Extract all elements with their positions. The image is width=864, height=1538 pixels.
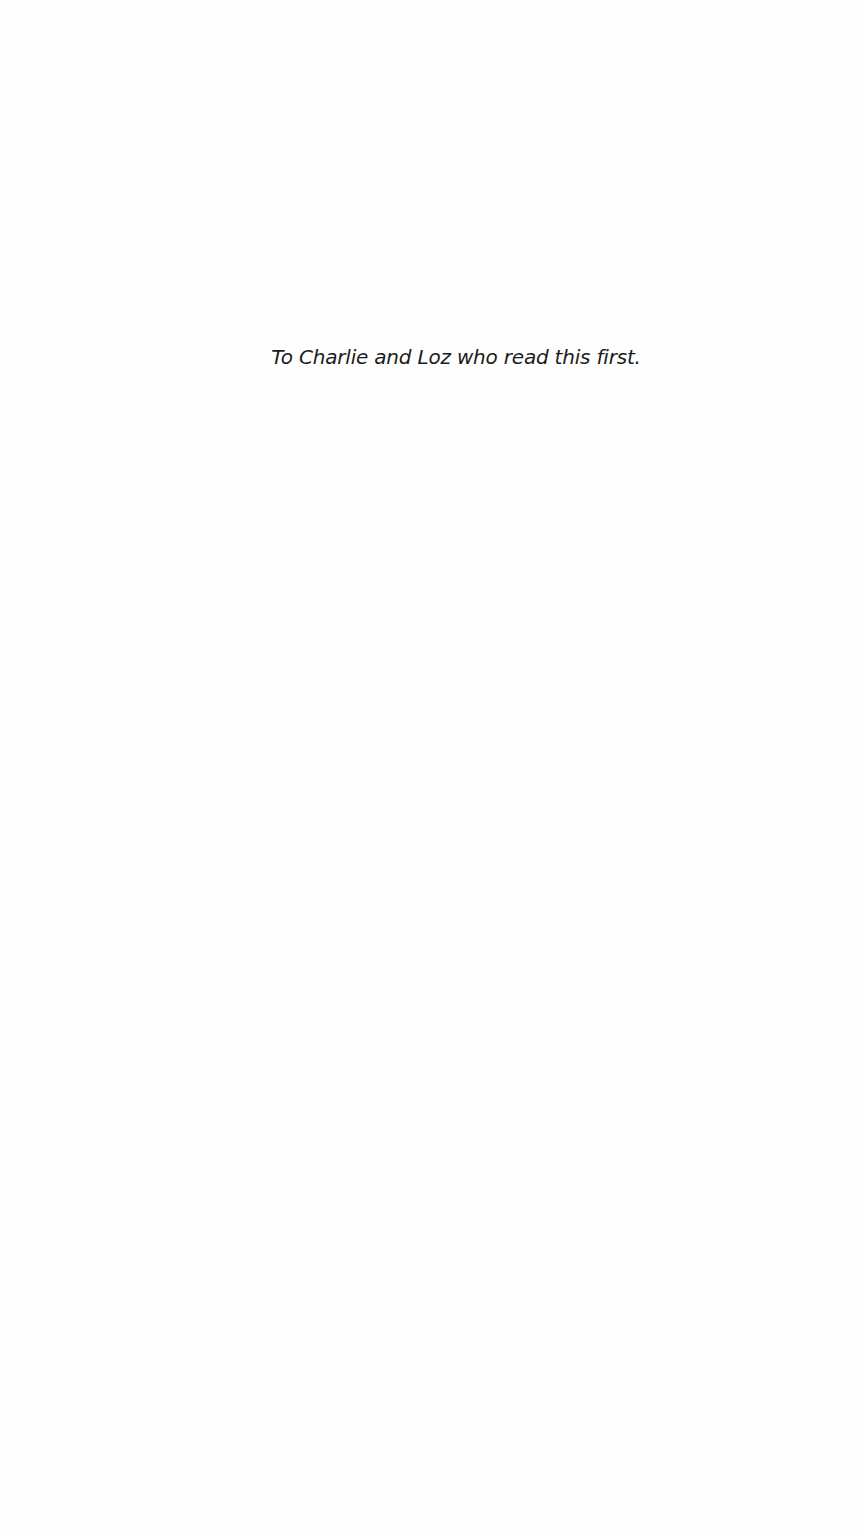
dedication-text: To Charlie and Loz who read this first. bbox=[0, 342, 864, 372]
book-page: To Charlie and Loz who read this first. bbox=[0, 0, 864, 1538]
